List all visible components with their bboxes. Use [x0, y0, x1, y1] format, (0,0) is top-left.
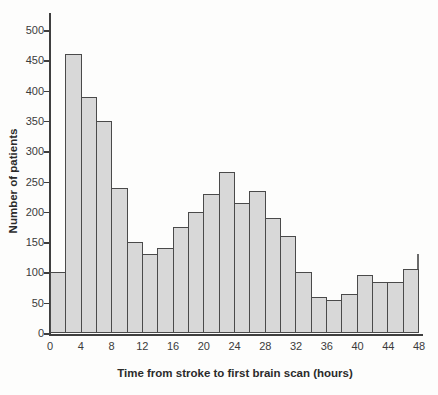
y-tick-label: 50	[10, 297, 44, 309]
y-tick-label: 350	[10, 115, 44, 127]
y-tick-label: 200	[10, 206, 44, 218]
histogram-bar	[96, 121, 112, 333]
histogram-bar	[203, 194, 219, 333]
histogram-bar	[280, 236, 296, 333]
y-tick-mark	[44, 30, 49, 32]
y-tick-mark	[44, 151, 49, 153]
y-tick-label: 400	[10, 85, 44, 97]
x-tick-label: 48	[404, 340, 434, 352]
histogram-bar	[81, 97, 97, 333]
bars-container	[50, 30, 419, 333]
x-tick-label: 24	[220, 340, 250, 352]
x-tick-label: 16	[158, 340, 188, 352]
y-tick-label: 450	[10, 54, 44, 66]
histogram-bar	[111, 188, 127, 333]
x-tick-label: 32	[281, 340, 311, 352]
histogram-bar	[265, 218, 281, 333]
histogram-bar	[341, 294, 357, 333]
y-tick-mark	[44, 91, 49, 93]
y-tick-label: 500	[10, 24, 44, 36]
x-tick-label: 28	[250, 340, 280, 352]
histogram-bar	[311, 297, 327, 333]
y-tick-label: 0	[10, 327, 44, 339]
x-tick-label: 40	[343, 340, 373, 352]
y-tick-label: 300	[10, 145, 44, 157]
histogram-bar	[357, 275, 373, 333]
x-tick-label: 12	[127, 340, 157, 352]
y-tick-label: 250	[10, 176, 44, 188]
histogram-bar	[249, 191, 265, 333]
y-tick-label: 100	[10, 266, 44, 278]
artifact-spike	[417, 254, 419, 269]
y-tick-mark	[44, 212, 49, 214]
y-tick-mark	[44, 242, 49, 244]
x-axis-line	[49, 334, 423, 336]
y-tick-label: 150	[10, 236, 44, 248]
y-tick-mark	[44, 303, 49, 305]
histogram-bar	[142, 254, 158, 333]
x-tick-label: 4	[66, 340, 96, 352]
histogram-bar	[372, 282, 388, 334]
histogram-bar	[403, 269, 419, 333]
histogram-bar	[326, 300, 342, 333]
x-axis-title: Time from stroke to first brain scan (ho…	[117, 367, 353, 379]
histogram-bar	[387, 282, 403, 334]
histogram-bar	[65, 54, 81, 333]
x-tick-label: 8	[97, 340, 127, 352]
y-tick-mark	[44, 60, 49, 62]
histogram-bar	[234, 203, 250, 333]
y-tick-mark	[44, 182, 49, 184]
x-tick-label: 20	[189, 340, 219, 352]
x-tick-label: 0	[35, 340, 65, 352]
y-tick-mark	[44, 272, 49, 274]
histogram-bar	[173, 227, 189, 333]
histogram-bar	[157, 248, 173, 333]
histogram-bar	[50, 272, 66, 333]
y-tick-mark	[44, 121, 49, 123]
histogram-bar	[219, 172, 235, 333]
histogram-figure: Number of patients Time from stroke to f…	[0, 0, 438, 395]
y-tick-mark	[44, 333, 49, 335]
histogram-bar	[188, 212, 204, 333]
histogram-bar	[127, 242, 143, 333]
histogram-bar	[295, 272, 311, 333]
x-tick-label: 44	[373, 340, 403, 352]
x-tick-label: 36	[312, 340, 342, 352]
